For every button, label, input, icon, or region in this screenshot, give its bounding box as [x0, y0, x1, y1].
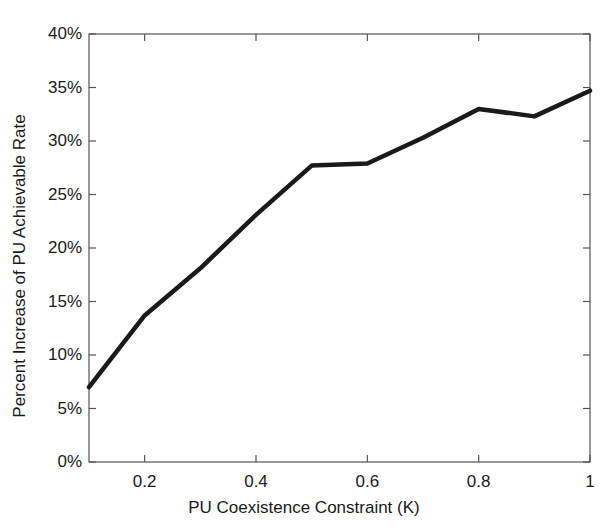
data-series-group	[89, 91, 590, 387]
tick-marks	[89, 34, 590, 462]
chart-figure: Percent Increase of PU Achievable Rate P…	[0, 0, 608, 531]
axes-border	[89, 34, 590, 462]
data-line-series	[89, 91, 590, 387]
plot-frame	[89, 34, 590, 462]
plot-canvas	[0, 0, 608, 531]
